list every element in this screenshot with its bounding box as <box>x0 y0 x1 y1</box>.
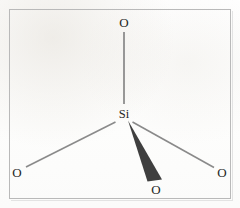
atom-label-o-bottom-left: O <box>12 166 21 179</box>
atom-label-o-bottom-right: O <box>217 166 226 179</box>
atom-label-o-top: O <box>119 16 128 29</box>
silicate-tetrahedron-figure: Si O O O O <box>0 0 240 208</box>
bond-network <box>0 0 240 208</box>
atom-label-o-front: O <box>151 183 160 196</box>
atom-label-si: Si <box>119 108 129 121</box>
bond-si-o-bottom-left <box>26 122 116 167</box>
